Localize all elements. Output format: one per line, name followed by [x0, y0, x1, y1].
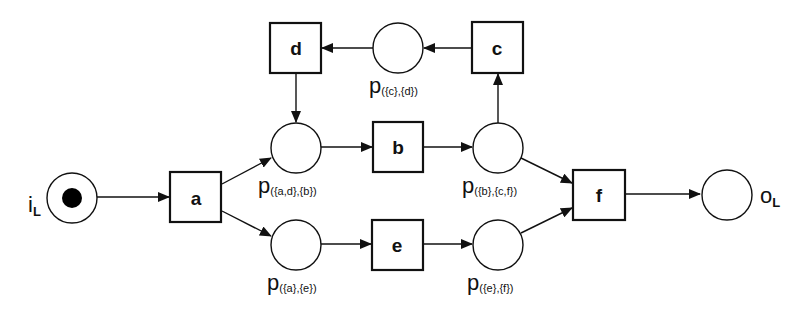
place-label-oL: oL: [760, 183, 780, 210]
transition-label-a: a: [191, 188, 202, 209]
place-label-p-e-f: p({e},{f}): [467, 270, 514, 295]
transition-label-c: c: [492, 38, 503, 59]
place-p-e-f[interactable]: [473, 220, 523, 270]
place-label-p-ad-b: p({a,d},{b}): [258, 173, 317, 198]
transition-label-f: f: [596, 185, 603, 206]
transition-label-d: d: [290, 38, 302, 59]
place-label-p-c-d: p({c},{d}): [369, 73, 418, 98]
place-label-p-a-e: p({a},{e}): [267, 270, 317, 295]
petri-net-diagram: a b c d e f iL oL p({c},{d}) p({a,d},{b}…: [0, 0, 799, 314]
place-label-iL: iL: [28, 192, 41, 219]
transition-label-b: b: [392, 137, 404, 158]
place-p-b-cf[interactable]: [473, 123, 523, 173]
arc-p-b-cf-to-f: [521, 158, 572, 183]
arc-a-to-p-a-e: [222, 211, 271, 236]
place-p-ad-b[interactable]: [271, 123, 321, 173]
arc-p-e-f-to-f: [521, 208, 572, 233]
place-p-c-d[interactable]: [373, 23, 423, 73]
transition-label-e: e: [392, 235, 403, 256]
token-icon: [62, 188, 82, 208]
place-label-p-b-cf: p({b},{c,f}): [462, 173, 517, 198]
place-oL[interactable]: [702, 170, 752, 220]
place-p-a-e[interactable]: [271, 220, 321, 270]
